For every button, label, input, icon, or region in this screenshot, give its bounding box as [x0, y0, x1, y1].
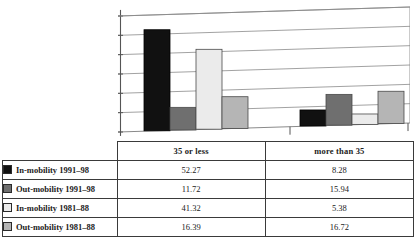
table-value-cell: 8.28 [265, 161, 413, 180]
table-column-header: 35 or less [117, 142, 265, 161]
legend-swatch-light-gray-icon [3, 222, 12, 231]
legend-swatch-white-icon [3, 203, 12, 212]
bar [222, 97, 248, 129]
legend-row-label: In-mobility 1991–98 [3, 161, 118, 180]
bar-chart-plot-area [118, 2, 410, 140]
legend-row-label: In-mobility 1981–88 [3, 199, 118, 218]
table-row: In-mobility 1991–9852.278.28 [3, 161, 414, 180]
table-value-cell: 15.94 [265, 180, 413, 199]
table-column-header: more than 35 [265, 142, 413, 161]
legend-swatch-dark-gray-icon [3, 184, 12, 193]
chart-figure: 35 or lessmore than 35In-mobility 1991–9… [0, 0, 418, 240]
legend-label-text: Out-mobility 1981–88 [16, 222, 95, 232]
bar [378, 91, 404, 123]
bar [144, 30, 170, 131]
bar [352, 114, 378, 124]
data-table: 35 or lessmore than 35In-mobility 1991–9… [2, 141, 414, 236]
bar [170, 107, 196, 130]
bar-chart-svg [118, 2, 410, 140]
data-table-grid: 35 or lessmore than 35In-mobility 1991–9… [2, 141, 414, 237]
table-row: In-mobility 1981–8841.325.38 [3, 199, 414, 218]
legend-row-label: Out-mobility 1991–98 [3, 180, 118, 199]
bar [326, 94, 352, 125]
table-value-cell: 11.72 [117, 180, 265, 199]
legend-label-text: Out-mobility 1991–98 [16, 184, 95, 194]
table-value-cell: 5.38 [265, 199, 413, 218]
table-value-cell: 52.27 [117, 161, 265, 180]
table-row: Out-mobility 1991–9811.7215.94 [3, 180, 414, 199]
legend-swatch-black-icon [3, 165, 12, 174]
table-value-cell: 41.32 [117, 199, 265, 218]
bar [300, 110, 326, 126]
table-row: Out-mobility 1981–8816.3916.72 [3, 218, 414, 237]
legend-label-text: In-mobility 1991–98 [16, 165, 89, 175]
bar [196, 49, 222, 129]
legend-label-text: In-mobility 1981–88 [16, 203, 89, 213]
table-corner-cell [3, 142, 118, 161]
table-value-cell: 16.72 [265, 218, 413, 237]
legend-row-label: Out-mobility 1981–88 [3, 218, 118, 237]
table-value-cell: 16.39 [117, 218, 265, 237]
table-header-row: 35 or lessmore than 35 [3, 142, 414, 161]
